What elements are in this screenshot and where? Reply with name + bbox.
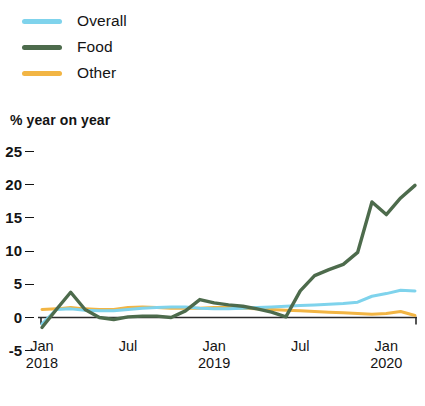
plot-area: 2520151050-5 Jan2018JulJan2019JulJan2020 (0, 0, 425, 406)
chart-figure: Overall Food Other % year on year 252015… (0, 0, 425, 406)
series-line-food (42, 185, 415, 327)
series-lines (0, 0, 425, 406)
